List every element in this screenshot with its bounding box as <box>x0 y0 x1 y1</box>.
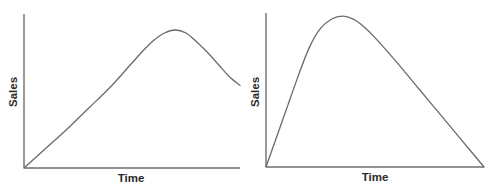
sales-curve <box>24 30 240 168</box>
y-axis-label: Sales <box>249 77 261 107</box>
chart-right: Time Sales <box>249 13 484 183</box>
charts-canvas: Time Sales Time Sales <box>0 0 490 193</box>
sales-curve <box>266 16 484 167</box>
y-axis-label: Sales <box>7 77 19 107</box>
x-axis-label: Time <box>118 172 145 184</box>
chart-left: Time Sales <box>7 14 240 184</box>
x-axis-label: Time <box>362 171 389 183</box>
